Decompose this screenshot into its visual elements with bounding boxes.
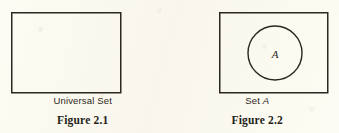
universal-set-diagram xyxy=(0,0,170,100)
universal-set-rectangle xyxy=(12,13,121,93)
figure-2-1-block: Universal Set Figure 2.1 xyxy=(0,0,170,133)
figure-2-2-number: Figure 2.2 xyxy=(173,114,339,127)
figure-2-2-block: A Set A Figure 2.2 xyxy=(170,0,339,133)
set-a-circle-label: A xyxy=(270,48,278,60)
set-a-diagram: A xyxy=(170,0,339,100)
figure-2-1-caption-text: Universal Set xyxy=(54,95,112,106)
figure-2-1-caption: Universal Set xyxy=(0,95,168,106)
figure-2-1-number: Figure 2.1 xyxy=(0,114,168,127)
figure-pair-container: Universal Set Figure 2.1 A Set A Figure … xyxy=(0,0,339,133)
figure-2-2-caption-prefix: Set xyxy=(245,95,263,106)
figure-2-2-caption: Set A xyxy=(173,95,339,106)
figure-2-2-caption-variable: A xyxy=(263,95,270,106)
